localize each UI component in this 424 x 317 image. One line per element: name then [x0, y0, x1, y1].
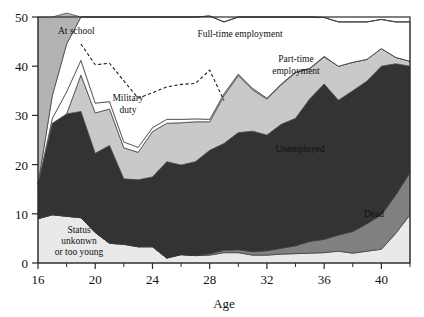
annotation-military-1: Military: [112, 93, 143, 103]
y-tick-label: 10: [15, 207, 28, 222]
x-tick-label: 28: [203, 272, 216, 287]
x-tick-label: 36: [318, 272, 332, 287]
annotation-unemployed: Unemployed: [275, 144, 324, 154]
annotation-status-3: or too young: [55, 247, 104, 257]
x-tick-label: 20: [89, 272, 102, 287]
y-tick-label: 40: [15, 59, 28, 74]
x-tick-label: 40: [375, 272, 388, 287]
stacked-area-chart: 0102030405016202428323640 At schoolFull-…: [0, 0, 424, 317]
annotation-part-time-1: Part-time: [278, 54, 313, 64]
annotation-full-time: Full-time employment: [197, 29, 283, 39]
annotation-status-1: Status: [67, 225, 91, 235]
y-tick-label: 0: [22, 256, 29, 271]
y-tick-label: 20: [15, 158, 28, 173]
x-tick-label: 32: [260, 272, 273, 287]
y-tick-label: 30: [15, 108, 28, 123]
area-series-group: [38, 13, 410, 263]
annotation-status-2: unkonwn: [61, 236, 97, 246]
chart-container: 0102030405016202428323640 At schoolFull-…: [0, 0, 424, 317]
annotation-military-2: duty: [120, 105, 137, 115]
x-tick-label: 16: [32, 272, 46, 287]
annotation-part-time-2: employment: [272, 66, 320, 76]
x-tick-label: 24: [146, 272, 160, 287]
y-tick-label: 50: [15, 10, 28, 25]
annotation-at-school: At school: [58, 26, 95, 36]
x-axis-title: Age: [213, 296, 235, 311]
annotation-dead: Dead: [364, 209, 384, 219]
